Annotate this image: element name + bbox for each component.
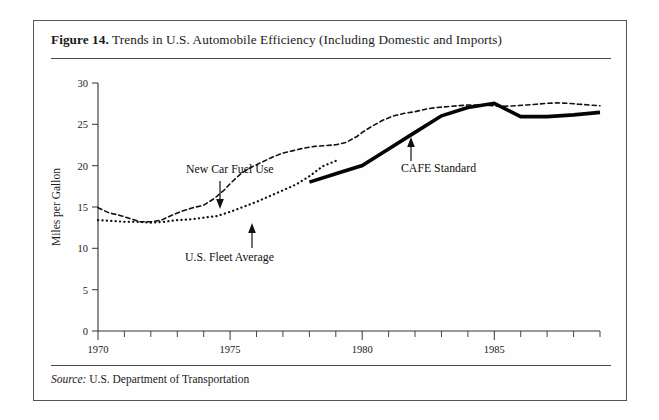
annotation-label-new-car: New Car Fuel Use xyxy=(186,162,273,176)
x-tick-label-1970: 1970 xyxy=(88,344,109,355)
y-tick-label-5: 5 xyxy=(83,285,88,296)
annotation-label-fleet: U.S. Fleet Average xyxy=(185,250,274,264)
chart-plot-area: 30 25 20 15 10 5 0 Miles per Gallon xyxy=(34,21,628,402)
y-tick-label-0: 0 xyxy=(83,326,88,337)
annotation-new-car-fuel-use: New Car Fuel Use xyxy=(186,162,273,209)
source-note: Source: U.S. Department of Transportatio… xyxy=(51,373,249,385)
source-text: U.S. Department of Transportation xyxy=(86,373,249,385)
x-tick-label-1985: 1985 xyxy=(484,344,505,355)
y-tick-label-15: 15 xyxy=(78,202,89,213)
source-label: Source: xyxy=(51,373,86,385)
y-tick-label-20: 20 xyxy=(78,161,89,172)
efficiency-line-chart: 30 25 20 15 10 5 0 Miles per Gallon xyxy=(34,21,628,402)
y-axis-title: Miles per Gallon xyxy=(50,168,63,246)
figure-panel: Figure 14. Trends in U.S. Automobile Eff… xyxy=(33,20,627,401)
y-tick-group: 30 25 20 15 10 5 0 xyxy=(78,78,99,337)
y-tick-label-25: 25 xyxy=(78,119,89,130)
x-tick-label-1975: 1975 xyxy=(220,344,241,355)
x-tick-label-1980: 1980 xyxy=(352,344,373,355)
annotation-label-cafe: CAFE Standard xyxy=(401,161,476,175)
annotation-us-fleet-average: U.S. Fleet Average xyxy=(185,223,274,264)
series-new-car-fuel-use xyxy=(98,103,600,222)
x-tick-group: 1970 1975 1980 1985 xyxy=(88,331,601,355)
y-tick-label-30: 30 xyxy=(78,78,89,89)
source-divider xyxy=(51,365,611,366)
annotation-cafe-standard: CAFE Standard xyxy=(401,137,476,175)
arrow-up-icon xyxy=(248,223,256,233)
arrow-down-icon xyxy=(216,199,224,209)
y-tick-label-10: 10 xyxy=(78,243,89,254)
